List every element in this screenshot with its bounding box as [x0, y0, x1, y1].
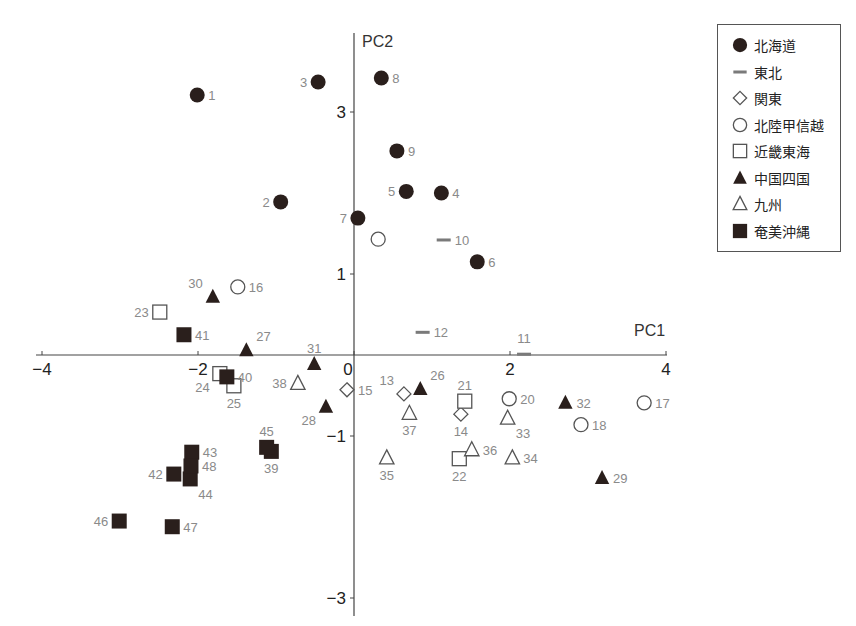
open-triangle-icon	[505, 450, 519, 464]
legend-label: 関東	[754, 88, 782, 108]
open-circle-icon	[733, 118, 746, 131]
data-point: 46	[94, 514, 127, 530]
filled-square-icon	[165, 519, 180, 534]
filled-square-icon	[166, 467, 181, 482]
series-dash: 101112	[416, 233, 531, 356]
open-diamond-icon	[397, 387, 411, 401]
filled-square-legend-icon	[730, 221, 750, 241]
legend-label: 東北	[754, 62, 782, 82]
filled-triangle-icon	[319, 399, 333, 413]
data-point: 15	[340, 383, 372, 398]
series-filled-square: 39404142434445464748	[94, 327, 279, 534]
point-label: 26	[430, 368, 444, 383]
data-point: 36	[465, 442, 498, 458]
filled-triangle-icon	[558, 395, 572, 409]
series-filled-triangle: 26272829303132	[188, 276, 627, 486]
data-point: 32	[558, 395, 591, 411]
filled-square-icon	[259, 440, 274, 455]
data-point: 9	[389, 143, 415, 159]
y-tick-label: −3	[327, 589, 346, 608]
data-point: 31	[307, 341, 321, 370]
data-point: 29	[595, 470, 628, 486]
point-label: 25	[227, 396, 241, 411]
point-label: 48	[202, 459, 216, 474]
filled-square-icon	[183, 458, 198, 473]
filled-triangle-icon	[206, 289, 220, 303]
data-point: 45	[259, 424, 274, 455]
open-diamond-icon	[340, 383, 354, 397]
point-label: 36	[483, 443, 497, 458]
x-tick-label: −4	[32, 360, 51, 379]
open-square-icon	[458, 394, 472, 408]
open-circle-icon	[371, 232, 385, 246]
open-circle-icon	[231, 280, 245, 294]
y-tick-label: −1	[327, 427, 346, 446]
filled-triangle-icon	[307, 356, 321, 370]
legend-item: 九州	[730, 192, 782, 216]
point-label: 5	[388, 184, 395, 199]
dash-icon	[517, 353, 531, 356]
filled-circle-icon	[374, 70, 389, 85]
point-label: 6	[488, 255, 495, 270]
open-square-icon	[733, 144, 746, 157]
data-point: 42	[148, 467, 181, 483]
data-point: 2	[262, 194, 288, 210]
point-label: 16	[249, 280, 263, 295]
y-axis-title: PC2	[362, 33, 393, 50]
open-diamond-legend-icon	[730, 88, 750, 108]
legend: 北海道東北関東北陸甲信越近畿東海中国四国九州奄美沖縄	[717, 24, 841, 252]
data-point: 17	[637, 396, 669, 411]
data-point: 28	[301, 399, 333, 428]
filled-square-icon	[112, 514, 127, 529]
point-label: 1	[208, 88, 215, 103]
point-label: 20	[520, 392, 534, 407]
point-label: 35	[380, 468, 394, 483]
data-point: 41	[176, 327, 209, 343]
legend-item: 北海道	[730, 33, 796, 57]
data-point: 13	[379, 373, 410, 401]
open-square-icon	[153, 305, 167, 319]
open-circle-icon	[637, 396, 651, 410]
data-point: 38	[272, 375, 305, 391]
point-label: 17	[655, 396, 669, 411]
filled-triangle-icon	[239, 342, 253, 356]
point-label: 30	[188, 276, 202, 291]
open-diamond-icon	[454, 407, 468, 421]
point-label: 11	[517, 331, 531, 346]
filled-circle-icon	[190, 87, 205, 102]
point-label: 29	[613, 471, 627, 486]
data-point: 16	[231, 280, 263, 295]
open-triangle-icon	[500, 410, 514, 424]
point-label: 43	[203, 445, 217, 460]
filled-circle-icon	[350, 211, 365, 226]
data-point: 14	[454, 407, 468, 439]
filled-circle-icon	[733, 38, 747, 52]
point-label: 12	[434, 325, 448, 340]
point-label: 47	[183, 520, 197, 535]
point-label: 7	[340, 211, 347, 226]
data-point: 7	[340, 211, 366, 227]
filled-circle-icon	[311, 75, 326, 90]
x-tick-label: 4	[661, 360, 670, 379]
point-label: 21	[458, 378, 472, 393]
open-triangle-icon	[291, 375, 305, 389]
legend-label: 近畿東海	[754, 141, 810, 161]
point-label: 27	[256, 329, 270, 344]
filled-circle-icon	[273, 194, 288, 209]
open-circle-icon	[574, 418, 588, 432]
data-point	[371, 232, 385, 246]
data-point: 33	[500, 410, 530, 441]
open-triangle-icon	[402, 405, 416, 419]
point-label: 23	[134, 305, 148, 320]
data-point: 20	[502, 392, 534, 407]
open-circle-icon	[502, 392, 516, 406]
legend-label: 北海道	[754, 35, 796, 55]
point-label: 33	[516, 426, 530, 441]
point-label: 31	[307, 341, 321, 356]
data-point: 35	[380, 450, 394, 483]
series-open-circle: 16171820	[231, 232, 670, 432]
point-label: 41	[195, 328, 209, 343]
legend-item: 関東	[730, 86, 782, 110]
legend-item: 近畿東海	[730, 139, 810, 163]
data-point: 11	[517, 331, 531, 356]
